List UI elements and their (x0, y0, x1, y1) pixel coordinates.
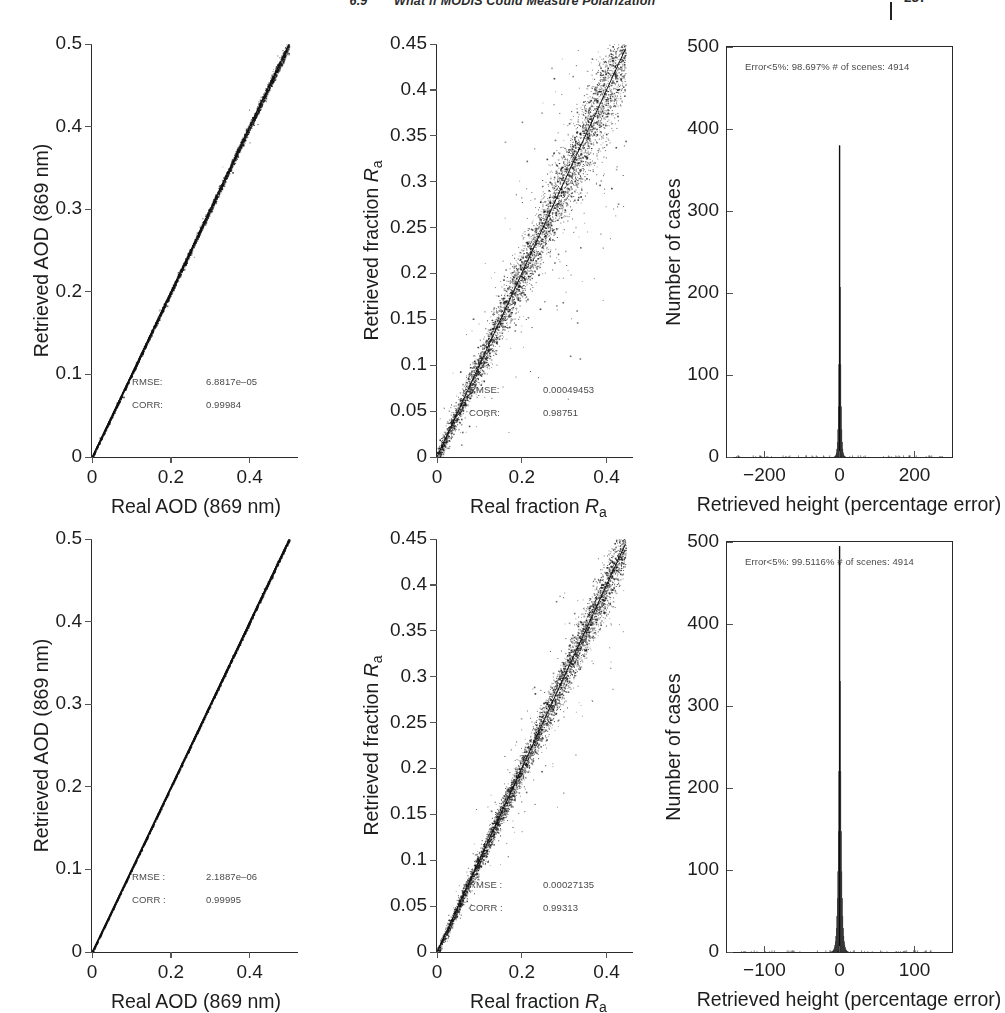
stat-corr-label: CORR: (469, 407, 500, 418)
x-axis-label-subscript: a (599, 999, 607, 1013)
x-axis-tick (839, 451, 840, 457)
y-axis-tick (85, 621, 92, 622)
x-axis-tick-label: 0.2 (482, 466, 562, 488)
stat-rmse-label: RMSE : (469, 879, 502, 890)
stat-rmse-value: 2.1887e–06 (206, 871, 257, 882)
y-axis-tick (85, 126, 92, 127)
y-axis-label-text: Retrieved fraction (360, 182, 382, 340)
histogram-canvas (727, 542, 952, 952)
y-axis-tick (727, 457, 733, 458)
x-axis-label: Real AOD (869 nm) (0, 990, 330, 1013)
histogram-note: Error<5%: 99.5116% # of scenes: 4914 (745, 556, 914, 567)
panel-bottom-right: 0100200300400500−1000100Number of casesR… (670, 517, 1005, 987)
y-axis-tick (727, 129, 733, 130)
x-axis-tick-label: 0.2 (131, 961, 211, 983)
panel-top-left: 00.10.20.30.40.500.20.4Retrieved AOD (86… (0, 22, 330, 492)
stat-corr: CORR:0.98751 (469, 407, 500, 418)
y-axis-tick (85, 291, 92, 292)
x-axis-tick (521, 952, 522, 958)
x-axis-tick-label: 0.4 (567, 466, 647, 488)
y-axis-tick (430, 411, 437, 412)
y-axis-line (91, 44, 92, 457)
stat-rmse-value: 6.8817e–05 (206, 376, 257, 387)
stat-corr-value: 0.99313 (543, 902, 578, 913)
y-axis-label: Retrieved AOD (869 nm) (30, 44, 53, 457)
x-axis-tick-label: 100 (865, 959, 965, 981)
y-axis-tick (430, 227, 437, 228)
stat-corr: CORR :0.99995 (132, 894, 166, 905)
x-axis-tick (839, 946, 840, 952)
x-axis-label: Retrieved height (percentage error) (670, 493, 1005, 516)
stat-rmse: RMSE:6.8817e–05 (132, 376, 163, 387)
header-section-title: What if MODIS Could Measure Polarization (394, 0, 656, 8)
x-axis-label-text: Real fraction (470, 495, 585, 517)
x-axis-label-text: Real fraction (470, 990, 585, 1012)
y-axis-label-subscript: a (369, 655, 385, 663)
y-axis-tick (430, 135, 437, 136)
x-axis-line (91, 952, 298, 953)
y-axis-tick (430, 89, 437, 90)
x-axis-tick (606, 457, 607, 463)
x-axis-tick-label: 0.4 (210, 466, 290, 488)
y-axis-label-symbol: R (360, 168, 382, 182)
y-axis-tick (727, 375, 733, 376)
x-axis-tick (606, 952, 607, 958)
panel-bottom-middle: 00.050.10.150.20.250.30.350.40.4500.20.4… (330, 517, 670, 987)
x-axis-tick (249, 952, 250, 958)
x-axis-tick (92, 457, 93, 463)
x-axis-tick (249, 457, 250, 463)
y-axis-tick (727, 211, 733, 212)
y-axis-label-subscript: a (369, 160, 385, 168)
y-axis-tick (727, 293, 733, 294)
x-axis-tick-label: 0 (52, 961, 132, 983)
y-axis-tick (430, 273, 437, 274)
y-axis-tick (85, 869, 92, 870)
y-axis-line (91, 539, 92, 952)
y-axis-tick (430, 676, 437, 677)
stat-corr-value: 0.99984 (206, 399, 241, 410)
y-axis-tick (430, 539, 437, 540)
x-axis-tick (521, 457, 522, 463)
y-axis-tick (430, 768, 437, 769)
x-axis-tick-label: 0 (397, 466, 477, 488)
x-axis-tick (914, 946, 915, 952)
y-axis-tick (430, 906, 437, 907)
histogram-note: Error<5%: 98.697% # of scenes: 4914 (745, 61, 909, 72)
x-axis-line (436, 457, 633, 458)
y-axis-tick (430, 630, 437, 631)
y-axis-tick (727, 542, 733, 543)
y-axis-tick (430, 814, 437, 815)
x-axis-tick (437, 457, 438, 463)
y-axis-label: Number of cases (662, 542, 685, 952)
header-section-number: 6.9 (350, 0, 368, 8)
x-axis-tick (764, 946, 765, 952)
y-axis-label: Retrieved fraction Ra (360, 44, 385, 457)
panel-bottom-left: 00.10.20.30.40.500.20.4Retrieved AOD (86… (0, 517, 330, 987)
x-axis-label: Real fraction Ra (330, 990, 670, 1013)
y-axis-tick (727, 952, 733, 953)
x-axis-tick-label: 0.2 (131, 466, 211, 488)
x-axis-tick-label: 200 (865, 464, 965, 486)
y-axis-tick (727, 624, 733, 625)
header-divider-rule (890, 2, 892, 20)
scatter-plot-canvas (92, 44, 297, 457)
stat-corr: CORR:0.99984 (132, 399, 163, 410)
x-axis-tick-label: 0.4 (210, 961, 290, 983)
y-axis-tick (85, 374, 92, 375)
stat-corr-label: CORR : (469, 902, 503, 913)
x-axis-label: Real AOD (869 nm) (0, 495, 330, 518)
panel-top-middle: 00.050.10.150.20.250.30.350.40.4500.20.4… (330, 22, 670, 492)
x-axis-tick (170, 457, 171, 463)
page-number: 237 (904, 0, 927, 5)
y-axis-tick (430, 584, 437, 585)
panel-top-right: 0100200300400500−2000200Number of casesR… (670, 22, 1005, 492)
scatter-plot-canvas (92, 539, 297, 952)
y-axis-line (436, 539, 437, 952)
stat-rmse-label: RMSE: (469, 384, 500, 395)
x-axis-tick-label: 0 (52, 466, 132, 488)
scatter-plot-canvas (437, 539, 632, 952)
y-axis-tick (727, 706, 733, 707)
stat-rmse-label: RMSE : (132, 871, 165, 882)
x-axis-label-symbol: R (585, 495, 599, 517)
x-axis-tick-label: 0.2 (482, 961, 562, 983)
